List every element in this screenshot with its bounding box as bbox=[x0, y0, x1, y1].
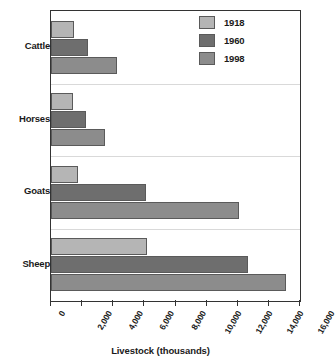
legend-swatch-1918 bbox=[199, 16, 215, 29]
x-tick-label: 2,000 bbox=[95, 309, 114, 332]
category-label-sheep: Sheep bbox=[22, 258, 50, 269]
bar-cattle-1918 bbox=[51, 21, 74, 38]
x-tick-mark bbox=[206, 300, 207, 306]
bar-sheep-1998 bbox=[51, 274, 286, 291]
group-separator bbox=[51, 84, 300, 85]
category-label-goats: Goats bbox=[24, 185, 50, 196]
group-separator bbox=[51, 156, 300, 157]
legend-label-1960: 1960 bbox=[224, 35, 244, 46]
bar-sheep-1960 bbox=[51, 256, 248, 273]
x-tick-label: 14,000 bbox=[284, 309, 305, 335]
category-label-horses: Horses bbox=[19, 113, 50, 124]
bar-goats-1960 bbox=[51, 184, 146, 201]
x-tick-label: 16,000 bbox=[315, 309, 336, 335]
bar-horses-1998 bbox=[51, 129, 105, 146]
x-tick-label: 4,000 bbox=[126, 309, 145, 332]
x-tick-mark bbox=[299, 300, 300, 306]
legend-item-1960: 1960 bbox=[199, 32, 291, 48]
x-tick-label: 12,000 bbox=[253, 309, 274, 335]
x-tick-mark bbox=[143, 300, 144, 306]
x-tick-mark bbox=[175, 300, 176, 306]
bar-sheep-1918 bbox=[51, 238, 147, 255]
x-tick-mark bbox=[112, 300, 113, 306]
legend-label-1918: 1918 bbox=[224, 17, 244, 28]
bar-horses-1960 bbox=[51, 111, 86, 128]
category-label-cattle: Cattle bbox=[25, 40, 50, 51]
x-tick-mark bbox=[81, 300, 82, 306]
legend-item-1918: 1918 bbox=[199, 14, 291, 30]
x-tick-label: 8,000 bbox=[189, 309, 208, 332]
legend-item-1998: 1998 bbox=[199, 50, 291, 66]
x-tick-mark bbox=[268, 300, 269, 306]
bar-goats-1998 bbox=[51, 202, 239, 219]
legend: 191819601998 bbox=[199, 14, 291, 68]
bar-cattle-1998 bbox=[51, 57, 117, 74]
group-separator bbox=[51, 229, 300, 230]
bar-horses-1918 bbox=[51, 93, 73, 110]
x-tick-mark bbox=[237, 300, 238, 306]
legend-label-1998: 1998 bbox=[224, 53, 244, 64]
x-tick-label: 6,000 bbox=[158, 309, 177, 332]
legend-swatch-1960 bbox=[199, 34, 215, 47]
x-axis-title: Livestock (thousands) bbox=[0, 345, 321, 356]
bar-goats-1918 bbox=[51, 166, 78, 183]
x-tick-mark bbox=[50, 300, 51, 306]
x-tick-label: 10,000 bbox=[222, 309, 243, 335]
x-tick-label: 0 bbox=[56, 309, 67, 318]
legend-swatch-1998 bbox=[199, 52, 215, 65]
bar-cattle-1960 bbox=[51, 39, 88, 56]
